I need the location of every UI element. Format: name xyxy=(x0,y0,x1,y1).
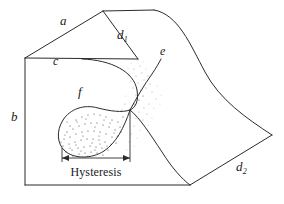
hysteresis-label: Hysteresis xyxy=(56,165,136,180)
label-f: f xyxy=(78,85,82,98)
label-d2-subscript: 2 xyxy=(243,167,247,176)
hysteresis-measure xyxy=(62,110,130,162)
edge-c xyxy=(25,58,138,59)
label-d2-base: d xyxy=(236,159,243,174)
arrowhead-right xyxy=(123,155,130,161)
stipple-lobe xyxy=(61,113,124,156)
label-e: e xyxy=(160,45,165,57)
label-d2: d2 xyxy=(236,160,247,176)
curve-e-trajectory xyxy=(130,59,161,110)
label-d1-subscript: 1 xyxy=(124,35,128,44)
arrowhead-left xyxy=(62,155,69,161)
label-c: c xyxy=(53,55,58,67)
edge-d2 xyxy=(190,135,272,185)
label-d1: d1 xyxy=(117,28,128,44)
label-d1-base: d xyxy=(117,27,124,42)
edge-right-curve xyxy=(154,10,272,135)
fold-curve-upper xyxy=(82,59,138,110)
cusp-catastrophe-figure: a d1 c e f b d2 Hysteresis xyxy=(0,0,284,204)
label-a: a xyxy=(60,14,67,27)
label-b: b xyxy=(11,110,18,123)
fold-curve-lower xyxy=(130,110,190,185)
edge-back-top xyxy=(103,10,154,11)
